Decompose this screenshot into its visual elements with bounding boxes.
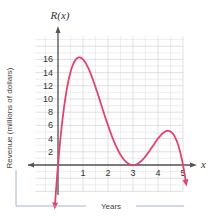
y-tick-label: 6 xyxy=(48,120,53,130)
function-label: R(x) xyxy=(50,9,70,22)
x-axis-title: Years xyxy=(101,202,121,211)
y-tick-label: 12 xyxy=(43,81,53,91)
x-tick-label: 1 xyxy=(80,168,85,178)
x-axis-left-arrow-icon xyxy=(28,163,34,168)
x-axis-right-arrow-icon xyxy=(190,163,197,168)
y-axis-title: Revenue (millions of dollars) xyxy=(5,67,14,168)
x-tick-label: 3 xyxy=(130,168,135,178)
curve-right-arrow-icon xyxy=(182,179,188,186)
y-tick-label: 16 xyxy=(43,54,53,64)
y-tick-label: 8 xyxy=(48,107,53,117)
x-variable-label: x xyxy=(200,158,206,170)
x-tick-label: 2 xyxy=(105,168,110,178)
x-tick-label: 4 xyxy=(155,168,160,178)
y-tick-label: 2 xyxy=(48,147,53,157)
y-tick-label: 14 xyxy=(43,68,53,78)
y-tick-label: 4 xyxy=(48,134,53,144)
y-bracket-line xyxy=(16,170,86,206)
y-axis-arrow-icon xyxy=(56,26,61,33)
chart: 12345246810121416 R(x) x Revenue (millio… xyxy=(0,0,215,220)
y-tick-label: 10 xyxy=(43,94,53,104)
axes xyxy=(28,26,197,195)
